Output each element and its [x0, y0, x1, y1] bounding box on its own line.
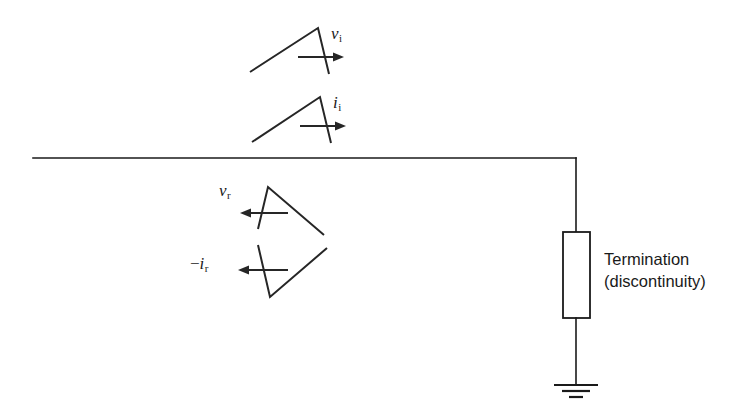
incident-voltage-symbol: v [331, 24, 339, 43]
incident-current-arrow [300, 122, 346, 131]
reflected-voltage-label: vr [219, 182, 231, 199]
incident-current-subscript: i [338, 101, 342, 113]
termination-caption: Termination (discontinuity) [604, 248, 706, 292]
reflected-voltage-subscript: r [227, 189, 231, 201]
incident-current-waveform [252, 97, 331, 143]
reflected-voltage-arrow [240, 209, 288, 218]
incident-current-label: ii [333, 94, 341, 111]
incident-voltage-label: vi [331, 25, 342, 42]
reflected-voltage-waveform [258, 187, 324, 235]
reflected-voltage-symbol: v [219, 181, 227, 200]
termination-caption-line1: Termination [604, 248, 706, 270]
reflected-current-label: −ir [190, 255, 209, 272]
diagram-canvas [0, 0, 749, 417]
termination-caption-line2: (discontinuity) [604, 270, 706, 292]
resistor-icon [563, 232, 590, 318]
reflected-current-subscript: r [204, 262, 208, 274]
reflected-current-sign: − [190, 254, 200, 273]
transmission-line-diagram: vi ii vr −ir Termination (discontinuity) [0, 0, 749, 417]
incident-voltage-waveform [250, 28, 329, 74]
incident-voltage-subscript: i [339, 32, 343, 44]
ground-icon [554, 385, 598, 397]
incident-voltage-arrow [298, 53, 344, 62]
